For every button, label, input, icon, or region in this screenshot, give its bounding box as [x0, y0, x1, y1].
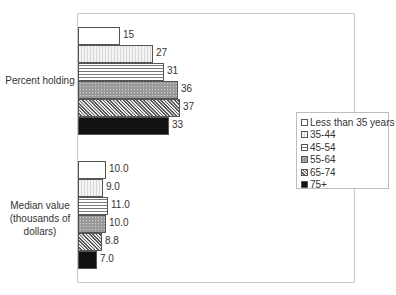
- legend-label: 55-64: [310, 154, 336, 165]
- bar-value-label: 10.0: [109, 163, 128, 175]
- legend-label: 35-44: [310, 129, 336, 140]
- bar-percent-holding-0: [78, 27, 120, 45]
- legend-label: 75+: [310, 179, 327, 190]
- bar-median-value-3: [78, 215, 106, 233]
- bar-value-label: 8.8: [105, 235, 119, 247]
- bar-percent-holding-1: [78, 45, 153, 63]
- legend-swatch-icon: [301, 119, 308, 126]
- legend-item-45-54: 45-54: [301, 141, 388, 154]
- legend-item-55-64: 55-64: [301, 154, 388, 167]
- legend-label: 65-74: [310, 167, 336, 178]
- legend-swatch-icon: [301, 169, 308, 176]
- bar-value-label: 10.0: [109, 217, 128, 229]
- bar-percent-holding-5: [78, 117, 169, 135]
- category-label-percent-holding: Percent holding: [4, 74, 76, 87]
- bar-value-label: 7.0: [100, 253, 114, 265]
- bar-median-value-1: [78, 179, 103, 197]
- bar-value-label: 9.0: [106, 181, 120, 193]
- legend-swatch-icon: [301, 181, 308, 188]
- bar-percent-holding-4: [78, 99, 180, 117]
- bar-value-label: 31: [167, 65, 178, 77]
- legend-swatch-icon: [301, 156, 308, 163]
- bar-percent-holding-3: [78, 81, 178, 99]
- bar-median-value-4: [78, 233, 102, 251]
- bar-value-label: 27: [156, 47, 167, 59]
- legend-item-less-than-35: Less than 35 years: [301, 116, 388, 129]
- bar-value-label: 36: [181, 83, 192, 95]
- category-label-line: (thousands of: [4, 212, 76, 225]
- bar-percent-holding-2: [78, 63, 164, 81]
- legend-swatch-icon: [301, 131, 308, 138]
- legend-swatch-icon: [301, 144, 308, 151]
- bar-value-label: 15: [123, 29, 134, 41]
- legend: Less than 35 years 35-44 45-54 55-64 65-…: [296, 112, 389, 189]
- legend-item-35-44: 35-44: [301, 129, 388, 142]
- bar-median-value-2: [78, 197, 108, 215]
- bar-median-value-5: [78, 251, 97, 269]
- legend-label: Less than 35 years: [310, 117, 395, 128]
- legend-label: 45-54: [310, 142, 336, 153]
- category-label-line: dollars): [4, 225, 76, 238]
- legend-item-65-74: 65-74: [301, 166, 388, 179]
- category-label-line: Median value: [4, 199, 76, 212]
- bar-value-label: 37: [183, 101, 194, 113]
- bar-median-value-0: [78, 161, 106, 179]
- category-label-median-value: Median value (thousands of dollars): [4, 199, 76, 238]
- bar-value-label: 33: [172, 119, 183, 131]
- bar-value-label: 11.0: [111, 199, 130, 211]
- legend-item-75-plus: 75+: [301, 179, 388, 192]
